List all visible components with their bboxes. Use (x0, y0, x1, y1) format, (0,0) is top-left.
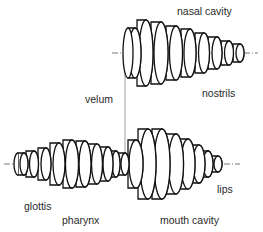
label-velum: velum (85, 94, 113, 105)
nasal-tube (123, 20, 244, 86)
vocal-tract-diagram (0, 0, 263, 232)
label-glottis: glottis (24, 201, 51, 212)
label-nostrils: nostrils (202, 88, 235, 99)
label-pharynx: pharynx (62, 215, 99, 226)
label-mouth-cavity: mouth cavity (160, 215, 219, 226)
oral-tube (14, 129, 222, 199)
label-nasal-cavity: nasal cavity (177, 6, 232, 17)
label-lips: lips (217, 184, 233, 195)
